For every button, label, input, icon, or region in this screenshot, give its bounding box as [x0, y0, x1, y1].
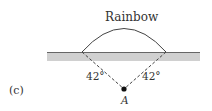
rainbow-arc [82, 29, 166, 53]
angle-right-label: 42° [142, 71, 161, 82]
panel-label: (c) [9, 85, 24, 96]
angle-left-label: 42° [86, 71, 105, 82]
observer-point [121, 86, 126, 91]
rainbow-label: Rainbow [105, 11, 158, 23]
ground-band [47, 53, 200, 61]
observer-point-label: A [121, 95, 129, 106]
rainbow-diagram: Rainbow 42° 42° A (c) [0, 0, 212, 111]
